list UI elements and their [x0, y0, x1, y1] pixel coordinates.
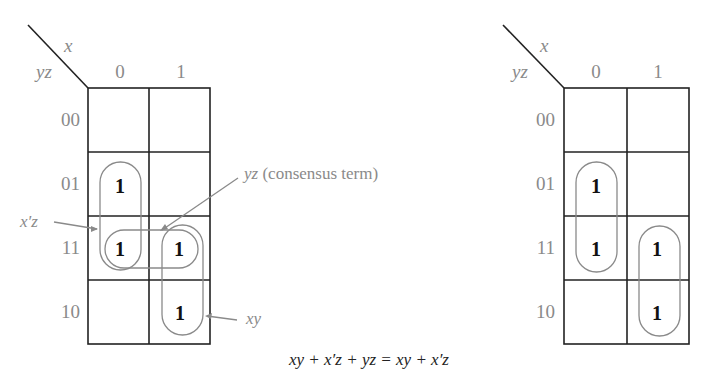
- col-var-label: x: [63, 35, 73, 56]
- annotation-consensus-text: (consensus term): [258, 164, 378, 183]
- col-var-label: x: [539, 35, 549, 56]
- cell-11-1: 1: [652, 238, 662, 260]
- col-header-1: 1: [653, 61, 663, 82]
- row-var-label: yz: [34, 61, 52, 82]
- row-header-01: 01: [536, 173, 555, 194]
- cell-11-0: 1: [591, 238, 601, 260]
- cell-01-0: 1: [591, 175, 601, 197]
- grid: [564, 88, 689, 344]
- annotation-xprime-z: x′z: [19, 212, 38, 231]
- right-kmap: x yz 0 1 00 01 11 10 1 1 1 1: [503, 25, 689, 344]
- col-header-0: 0: [591, 61, 601, 82]
- row-header-00: 00: [536, 109, 555, 130]
- arrowhead-icon: [91, 226, 98, 232]
- annotation-consensus: yz (consensus term): [242, 164, 378, 183]
- annotation-xy: xy: [245, 309, 262, 328]
- row-header-00: 00: [61, 109, 80, 130]
- col-header-0: 0: [115, 61, 125, 82]
- arrow-xy: [207, 316, 237, 320]
- row-header-10: 10: [536, 301, 555, 322]
- row-header-10: 10: [61, 301, 80, 322]
- cell-01-0: 1: [115, 175, 125, 197]
- grid: [88, 88, 210, 344]
- arrow-xprime-z: [54, 222, 97, 229]
- row-var-label: yz: [510, 61, 528, 82]
- cell-11-0: 1: [115, 238, 125, 260]
- arrowhead-icon: [205, 313, 212, 319]
- equation: xy + x′z + yz = xy + x′z: [288, 350, 449, 369]
- col-header-1: 1: [176, 61, 186, 82]
- row-header-11: 11: [537, 237, 555, 258]
- annotation-consensus-var: yz: [242, 164, 259, 183]
- row-header-11: 11: [62, 237, 80, 258]
- kmap-consensus-diagram: x yz 0 1 00 01 11 10 1 1 1 1 x′z yz (con…: [0, 0, 706, 384]
- cell-11-1: 1: [174, 238, 184, 260]
- left-kmap: x yz 0 1 00 01 11 10 1 1 1 1 x′z yz (con…: [19, 25, 378, 344]
- cell-10-1: 1: [175, 302, 185, 324]
- arrow-consensus: [162, 178, 238, 230]
- cell-10-1: 1: [652, 302, 662, 324]
- row-header-01: 01: [61, 173, 80, 194]
